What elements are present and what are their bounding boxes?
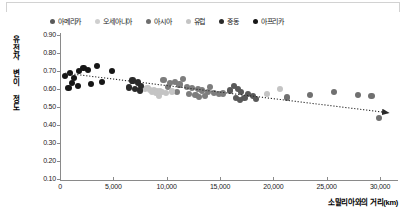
data-point	[144, 85, 150, 91]
x-tick-label: 25,000	[310, 183, 344, 190]
x-tick-mark	[380, 177, 381, 181]
y-tick-mark	[57, 161, 61, 162]
y-tick-mark	[57, 143, 61, 144]
y-tick-mark	[57, 71, 61, 72]
y-axis-title: 유 전 자 변 이 정 도	[12, 36, 21, 113]
data-point	[238, 89, 244, 95]
data-point	[180, 76, 186, 82]
data-point	[176, 81, 182, 87]
data-point	[75, 83, 81, 89]
data-point	[368, 93, 374, 99]
data-point	[94, 63, 100, 69]
y-tick-label: 0.20	[32, 157, 56, 164]
data-point	[277, 86, 283, 92]
data-point	[264, 91, 270, 97]
x-tick-label: 10,000	[150, 183, 184, 190]
y-tick-mark	[57, 125, 61, 126]
data-point	[253, 96, 259, 102]
x-tick-mark	[220, 177, 221, 181]
x-tick-label: 30,000	[363, 183, 397, 190]
y-tick-mark	[57, 89, 61, 90]
data-point	[85, 67, 91, 73]
x-tick-mark	[113, 177, 114, 181]
data-point	[237, 97, 243, 103]
y-tick-mark	[57, 53, 61, 54]
data-point	[99, 79, 105, 85]
data-point	[227, 87, 233, 93]
data-point	[220, 90, 226, 96]
data-point	[65, 85, 71, 91]
scatter-plot-area: 유 전 자 변 이 정 도 0.100.200.300.400.500.600.…	[0, 0, 404, 219]
data-point	[207, 84, 213, 90]
x-axis-title: 소말리아와의 거리(km)	[328, 196, 398, 207]
data-point	[163, 90, 169, 96]
x-tick-label: 0	[43, 183, 77, 190]
data-point	[174, 89, 180, 95]
x-tick-mark	[273, 177, 274, 181]
data-point	[376, 115, 382, 121]
data-point	[169, 88, 175, 94]
x-axis-line	[60, 180, 398, 181]
y-tick-label: 0.50	[32, 103, 56, 110]
data-point	[307, 92, 313, 98]
y-tick-label: 0.90	[32, 31, 56, 38]
data-point	[160, 77, 166, 83]
data-point	[331, 89, 337, 95]
data-point	[196, 94, 202, 100]
data-point	[202, 93, 208, 99]
y-tick-label: 0.60	[32, 85, 56, 92]
data-point	[355, 92, 361, 98]
x-tick-label: 5,000	[96, 183, 130, 190]
data-point	[126, 84, 132, 90]
y-tick-label: 0.30	[32, 139, 56, 146]
data-point	[284, 94, 290, 100]
y-tick-label: 0.40	[32, 121, 56, 128]
y-tick-mark	[57, 35, 61, 36]
data-point	[156, 93, 162, 99]
y-tick-label: 0.80	[32, 49, 56, 56]
y-tick-label: 0.10	[32, 175, 56, 182]
data-point	[109, 68, 115, 74]
x-tick-mark	[167, 177, 168, 181]
x-tick-mark	[327, 177, 328, 181]
x-tick-mark	[60, 177, 61, 181]
y-tick-mark	[57, 107, 61, 108]
data-point	[88, 81, 94, 87]
data-point	[137, 87, 143, 93]
data-point	[186, 91, 192, 97]
x-tick-label: 15,000	[203, 183, 237, 190]
x-tick-label: 20,000	[256, 183, 290, 190]
y-tick-label: 0.70	[32, 67, 56, 74]
